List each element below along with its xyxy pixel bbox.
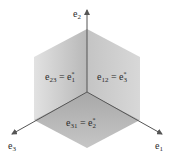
- axis-label-e1: e1: [155, 140, 163, 153]
- axis-label-e2: e2: [73, 8, 81, 21]
- axis-label-e3: e3: [8, 140, 16, 153]
- bivector-diagram: e2 e3 e1 e23 = e*1 e12 = e*3 e31 = e*2: [0, 0, 172, 163]
